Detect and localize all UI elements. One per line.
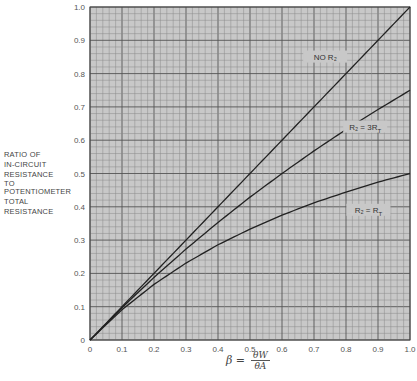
- x-tick-label: 0.9: [372, 345, 384, 354]
- y-tick-label: 0.9: [74, 36, 86, 45]
- y-tick-label: 1.0: [74, 3, 86, 12]
- y-tick-label: 0.1: [74, 303, 86, 312]
- y-axis-label: RATIO OF IN-CIRCUIT RESISTANCE TO POTENT…: [4, 150, 71, 217]
- y-label-line: RESISTANCE: [4, 207, 71, 217]
- y-label-line: TOTAL: [4, 197, 71, 207]
- y-tick-label: 0.3: [74, 236, 86, 245]
- x-axis-label: β = θW θA: [226, 350, 270, 371]
- y-label-line: POTENTIOMETER: [4, 187, 71, 197]
- x-label-denominator: θA: [254, 361, 266, 371]
- x-label-lhs: β =: [226, 354, 245, 367]
- y-tick-label: 0.8: [74, 70, 86, 79]
- x-tick-label: 1.0: [404, 345, 416, 354]
- y-label-line: TO: [4, 180, 71, 187]
- x-label-numerator: θW: [251, 350, 270, 361]
- x-tick-label: 0: [88, 345, 93, 354]
- x-tick-label: 0.3: [180, 345, 192, 354]
- x-tick-label: 0.8: [340, 345, 352, 354]
- y-axis-ticks: 00.10.20.30.40.50.60.70.80.91.0: [74, 3, 86, 345]
- y-tick-label: 0.2: [74, 269, 86, 278]
- x-tick-label: 0.1: [116, 345, 128, 354]
- x-tick-label: 0.7: [308, 345, 320, 354]
- y-tick-label: 0.4: [74, 203, 86, 212]
- y-label-line: IN-CIRCUIT: [4, 160, 71, 170]
- y-label-line: RATIO OF: [4, 150, 71, 160]
- y-tick-label: 0.5: [74, 170, 86, 179]
- curve-label: NO R₂: [314, 53, 337, 62]
- x-label-fraction: θW θA: [251, 350, 270, 371]
- x-tick-label: 0.4: [212, 345, 224, 354]
- y-tick-label: 0.7: [74, 103, 86, 112]
- x-tick-label: 0.2: [148, 345, 160, 354]
- y-tick-label: 0.6: [74, 136, 86, 145]
- y-tick-label: 0: [81, 336, 86, 345]
- x-tick-label: 0.6: [276, 345, 288, 354]
